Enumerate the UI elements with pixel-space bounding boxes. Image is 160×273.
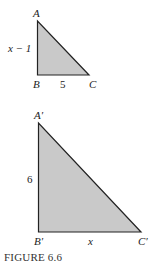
side-b-prime-c-prime-label: x <box>87 235 93 247</box>
figure-caption: FIGURE 6.6 <box>4 251 62 263</box>
side-bc-label: 5 <box>60 78 66 90</box>
vertex-b-label: B <box>33 78 40 90</box>
side-ab-label: x − 1 <box>7 42 31 54</box>
triangle-abc <box>38 21 90 75</box>
vertex-a-label: A <box>32 7 40 19</box>
side-a-prime-b-prime-label: 6 <box>27 173 33 185</box>
vertex-c-label: C <box>89 78 97 90</box>
vertex-b-prime-label: B′ <box>34 235 44 247</box>
figure-canvas: A B C x − 1 5 A′ B′ C′ 6 x <box>0 0 160 273</box>
triangle-a-prime-b-prime-c-prime <box>39 123 142 232</box>
vertex-a-prime-label: A′ <box>33 109 44 121</box>
vertex-c-prime-label: C′ <box>138 235 148 247</box>
